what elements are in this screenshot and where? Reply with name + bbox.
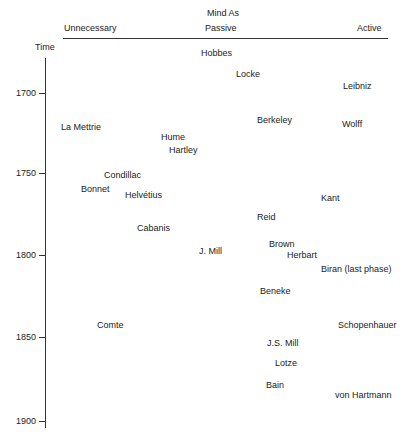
tick-mark-1750 — [39, 173, 45, 174]
header-divider — [63, 38, 388, 39]
header-active: Active — [357, 23, 382, 34]
thinker-bonnet: Bonnet — [81, 184, 110, 195]
thinker-berkeley: Berkeley — [257, 115, 292, 126]
thinker-locke: Locke — [236, 69, 260, 80]
time-axis — [45, 58, 46, 428]
thinker-comte: Comte — [97, 320, 124, 331]
thinker-schopenhauer: Schopenhauer — [338, 320, 397, 331]
tick-mark-1800 — [39, 255, 45, 256]
thinker-hume: Hume — [161, 132, 185, 143]
thinker-brown: Brown — [269, 239, 295, 250]
tick-mark-1900 — [39, 421, 45, 422]
thinker-cabanis: Cabanis — [137, 223, 170, 234]
tick-label-1900: 1900 — [2, 416, 36, 427]
tick-label-1700: 1700 — [2, 88, 36, 99]
axis-label-time: Time — [35, 42, 55, 53]
thinker-reid: Reid — [257, 212, 276, 223]
thinker-hobbes: Hobbes — [201, 48, 232, 59]
thinker-wolff: Wolff — [342, 119, 362, 130]
thinker-j-mill: J. Mill — [199, 246, 222, 257]
thinker-herbart: Herbart — [287, 250, 317, 261]
thinker-biran: Biran (last phase) — [321, 264, 392, 275]
tick-mark-1850 — [39, 337, 45, 338]
header-unnecessary: Unnecessary — [64, 23, 117, 34]
tick-label-1750: 1750 — [2, 168, 36, 179]
tick-mark-1700 — [39, 93, 45, 94]
thinker-hartley: Hartley — [169, 145, 198, 156]
thinker-js-mill: J.S. Mill — [267, 338, 299, 349]
tick-label-1850: 1850 — [2, 332, 36, 343]
thinker-beneke: Beneke — [260, 286, 291, 297]
thinker-leibniz: Leibniz — [343, 81, 372, 92]
thinker-la-mettrie: La Mettrie — [61, 122, 101, 133]
thinker-bain: Bain — [266, 380, 284, 391]
thinker-lotze: Lotze — [275, 358, 297, 369]
thinker-condillac: Condillac — [104, 170, 141, 181]
thinker-kant: Kant — [321, 193, 340, 204]
thinker-von-hartmann: von Hartmann — [335, 390, 392, 401]
thinker-helvetius: Helvétius — [125, 190, 162, 201]
tick-label-1800: 1800 — [2, 250, 36, 261]
header-passive: Passive — [205, 23, 237, 34]
header-mind-as: Mind As — [207, 8, 239, 19]
